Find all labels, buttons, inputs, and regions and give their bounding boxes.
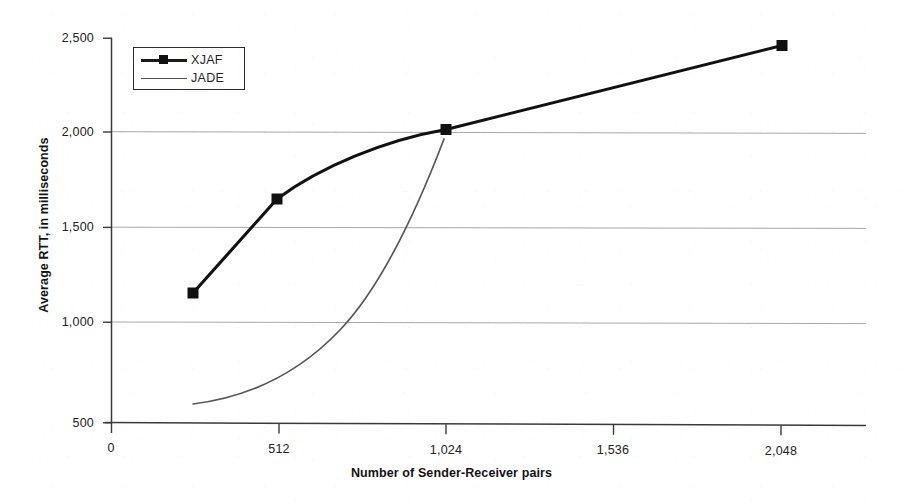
legend-item-xjaf: XJAF xyxy=(134,51,246,69)
legend-swatch-xjaf-icon xyxy=(139,52,191,68)
series-line-jade xyxy=(193,139,444,404)
x-tick-label-1024: 1,024 xyxy=(406,443,486,457)
legend-label-jade: JADE xyxy=(191,71,224,85)
x-tick-label-0: 0 xyxy=(71,441,151,455)
y-axis-title: Average RTT, in milliseconds xyxy=(37,95,51,355)
gridlines xyxy=(111,132,866,324)
x-axis-line xyxy=(105,423,866,426)
chart-figure: 2,500 2,000 1,500 1,000 500 0 512 1,024 … xyxy=(0,0,903,503)
y-tick-label-2500: 2,500 xyxy=(34,31,94,45)
legend-label-xjaf: XJAF xyxy=(191,53,223,67)
y-tick-label-500: 500 xyxy=(34,416,94,430)
x-tick-label-2048: 2,048 xyxy=(741,444,821,458)
x-tick-label-512: 512 xyxy=(239,442,319,456)
legend-swatch-jade-icon xyxy=(139,70,191,86)
x-axis-title: Number of Sender-Receiver pairs xyxy=(0,466,903,480)
chart-legend: XJAF JADE xyxy=(133,47,245,90)
x-tick-label-1536: 1,536 xyxy=(573,443,653,457)
legend-item-jade: JADE xyxy=(134,69,246,87)
series-markers-xjaf xyxy=(188,40,788,299)
series-line-xjaf xyxy=(193,46,782,294)
y-axis-ticks xyxy=(103,38,112,423)
